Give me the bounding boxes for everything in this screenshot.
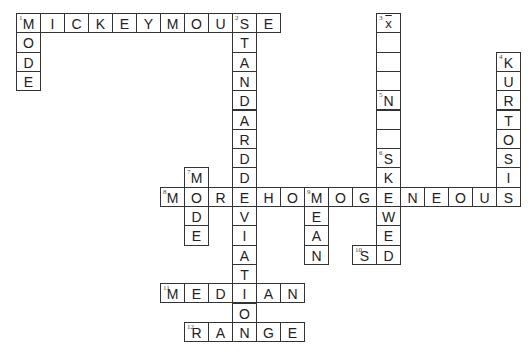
- crossword-cell[interactable]: E: [304, 206, 329, 226]
- cell-letter: M: [305, 189, 328, 207]
- cell-letter: D: [377, 247, 400, 265]
- crossword-cell[interactable]: E: [16, 71, 41, 91]
- crossword-cell[interactable]: O: [232, 303, 257, 323]
- cell-letter: U: [497, 73, 520, 91]
- crossword-cell[interactable]: C: [64, 13, 89, 33]
- crossword-cell[interactable]: O: [16, 32, 41, 52]
- crossword-cell[interactable]: K: [88, 13, 113, 33]
- crossword-cell[interactable]: I: [232, 283, 257, 303]
- crossword-cell[interactable]: S: [496, 148, 521, 168]
- cell-letter: N: [233, 73, 256, 91]
- crossword-cell[interactable]: E: [280, 322, 305, 342]
- cell-letter: C: [65, 15, 88, 33]
- cell-letter: E: [377, 227, 400, 245]
- cell-letter: I: [497, 169, 520, 187]
- crossword-cell[interactable]: U: [208, 13, 233, 33]
- crossword-cell[interactable]: D: [232, 148, 257, 168]
- crossword-cell[interactable]: N: [232, 322, 257, 342]
- crossword-cell[interactable]: N: [232, 71, 257, 91]
- crossword-cell[interactable]: U: [496, 71, 521, 91]
- crossword-cell[interactable]: G: [352, 187, 377, 207]
- crossword-cell[interactable]: K: [376, 167, 401, 187]
- crossword-cell[interactable]: N: [304, 245, 329, 265]
- crossword-cell[interactable]: A: [304, 225, 329, 245]
- crossword-cell[interactable]: S: [496, 187, 521, 207]
- crossword-cell[interactable]: V: [232, 206, 257, 226]
- crossword-cell[interactable]: R: [208, 187, 233, 207]
- crossword-cell[interactable]: [376, 32, 401, 52]
- crossword-cell[interactable]: W: [376, 206, 401, 226]
- crossword-cell[interactable]: D: [232, 167, 257, 187]
- crossword-cell[interactable]: A: [232, 245, 257, 265]
- crossword-cell[interactable]: U: [472, 187, 497, 207]
- crossword-cell[interactable]: N: [400, 187, 425, 207]
- crossword-cell[interactable]: 11M: [160, 283, 185, 303]
- crossword-cell[interactable]: 10S: [352, 245, 377, 265]
- cell-letter: E: [17, 73, 40, 91]
- cell-letter: A: [209, 324, 232, 342]
- crossword-cell[interactable]: H: [256, 187, 281, 207]
- crossword-cell[interactable]: D: [184, 206, 209, 226]
- crossword-cell[interactable]: G: [256, 322, 281, 342]
- cell-letter: K: [89, 15, 112, 33]
- crossword-cell[interactable]: A: [232, 52, 257, 72]
- crossword-cell[interactable]: 8M: [160, 187, 185, 207]
- cell-letter: E: [185, 227, 208, 245]
- crossword-cell[interactable]: 4K: [496, 52, 521, 72]
- crossword-cell[interactable]: 7M: [184, 167, 209, 187]
- crossword-cell[interactable]: [376, 129, 401, 149]
- cell-letter: N: [233, 324, 256, 342]
- crossword-cell[interactable]: T: [496, 110, 521, 130]
- crossword-cell[interactable]: 12R: [184, 322, 209, 342]
- crossword-cell[interactable]: E: [112, 13, 137, 33]
- crossword-cell[interactable]: O: [328, 187, 353, 207]
- cell-letter: x: [377, 15, 400, 33]
- crossword-cell[interactable]: D: [376, 245, 401, 265]
- crossword-cell[interactable]: Y: [136, 13, 161, 33]
- crossword-cell[interactable]: [376, 52, 401, 72]
- crossword-cell[interactable]: [376, 110, 401, 130]
- crossword-cell[interactable]: E: [232, 187, 257, 207]
- crossword-cell[interactable]: I: [496, 167, 521, 187]
- cell-letter: R: [185, 324, 208, 342]
- crossword-cell[interactable]: 6S: [376, 148, 401, 168]
- cell-letter: M: [185, 169, 208, 187]
- crossword-cell[interactable]: [376, 71, 401, 91]
- crossword-cell[interactable]: T: [232, 264, 257, 284]
- crossword-cell[interactable]: E: [424, 187, 449, 207]
- crossword-cell[interactable]: D: [208, 283, 233, 303]
- crossword-cell[interactable]: N: [280, 283, 305, 303]
- crossword-cell[interactable]: O: [184, 13, 209, 33]
- cell-letter: R: [497, 92, 520, 110]
- cell-letter: R: [233, 131, 256, 149]
- crossword-cell[interactable]: 2S: [232, 13, 257, 33]
- crossword-cell[interactable]: A: [256, 283, 281, 303]
- crossword-cell[interactable]: 5N: [376, 90, 401, 110]
- crossword-cell[interactable]: D: [16, 52, 41, 72]
- crossword-cell[interactable]: 3x: [376, 13, 401, 33]
- crossword-cell[interactable]: 9M: [304, 187, 329, 207]
- cell-letter: D: [185, 208, 208, 226]
- cell-letter: U: [473, 189, 496, 207]
- crossword-cell[interactable]: D: [232, 90, 257, 110]
- crossword-cell[interactable]: A: [208, 322, 233, 342]
- crossword-cell[interactable]: T: [232, 32, 257, 52]
- crossword-cell[interactable]: I: [232, 225, 257, 245]
- crossword-cell[interactable]: E: [184, 283, 209, 303]
- cell-letter: O: [449, 189, 472, 207]
- crossword-cell[interactable]: E: [376, 187, 401, 207]
- crossword-cell[interactable]: E: [184, 225, 209, 245]
- crossword-cell[interactable]: I: [40, 13, 65, 33]
- crossword-cell[interactable]: A: [232, 110, 257, 130]
- crossword-cell[interactable]: E: [256, 13, 281, 33]
- crossword-cell[interactable]: E: [376, 225, 401, 245]
- crossword-cell[interactable]: 1M: [16, 13, 41, 33]
- crossword-cell[interactable]: R: [232, 129, 257, 149]
- crossword-cell[interactable]: O: [448, 187, 473, 207]
- crossword-cell[interactable]: R: [496, 90, 521, 110]
- crossword-cell[interactable]: O: [184, 187, 209, 207]
- crossword-cell[interactable]: O: [496, 129, 521, 149]
- crossword-cell[interactable]: M: [160, 13, 185, 33]
- crossword-cell[interactable]: O: [280, 187, 305, 207]
- cell-letter: E: [425, 189, 448, 207]
